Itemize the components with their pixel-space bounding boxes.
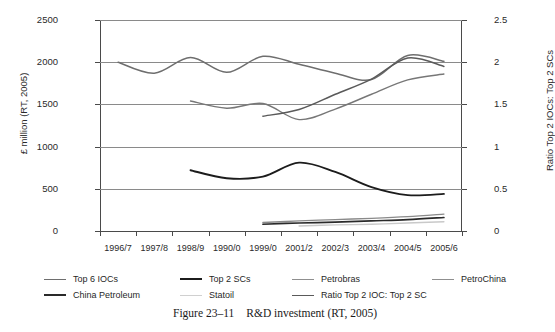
y-tick-right-0p5: 0.5 (494, 183, 530, 194)
x-tickmark (462, 231, 463, 236)
legend-label: Top 2 SCs (209, 274, 251, 284)
x-tickmark (136, 231, 137, 236)
y-tick-left-500: 500 (22, 183, 58, 194)
x-tickmark (209, 231, 210, 236)
y-tick-left-1000: 1000 (22, 141, 58, 152)
legend-label: PetroChina (461, 274, 506, 284)
y-tick-left-1500: 1500 (22, 98, 58, 109)
legend-swatch-icon (180, 295, 202, 296)
legend-item[interactable]: Statoil (180, 288, 234, 302)
x-tickmark (281, 231, 282, 236)
y-tick-right-1: 1 (494, 141, 530, 152)
y-tick-left-2000: 2000 (22, 56, 58, 67)
axis-tickmark (462, 62, 467, 63)
y-tick-right-2: 2 (494, 56, 530, 67)
x-tickmark (100, 231, 101, 236)
y-axis-right-title: Ratio Top 2 IOCs: Top 2 SCs (544, 23, 555, 198)
series-line-top-2-scs (191, 163, 444, 196)
y-tick-right-2p5: 2.5 (494, 14, 530, 25)
legend-swatch-icon (292, 295, 314, 296)
series-line-ratio-top-2-ioc-top-2-sc (263, 58, 444, 117)
legend-label: Ratio Top 2 IOC: Top 2 SC (321, 290, 427, 300)
x-tickmark (353, 231, 354, 236)
plot-area (100, 20, 462, 231)
legend-item[interactable]: Top 2 SCs (180, 272, 251, 286)
chart-legend: Top 6 IOCsTop 2 SCsPetrobrasPetroChinaCh… (0, 272, 550, 304)
series-lines (100, 20, 462, 231)
axis-tickmark (462, 104, 467, 105)
figure-caption: Figure 23–11R&D investment (RT, 2005) (0, 307, 550, 319)
legend-swatch-icon (432, 279, 454, 280)
figure-caption-text: R&D investment (RT, 2005) (246, 307, 377, 319)
y-tick-right-1p5: 1.5 (494, 98, 530, 109)
legend-swatch-icon (292, 279, 314, 280)
legend-item[interactable]: Ratio Top 2 IOC: Top 2 SC (292, 288, 427, 302)
legend-label: Petrobras (321, 274, 360, 284)
legend-swatch-icon (44, 279, 66, 280)
x-axis-labels: 1996/71997/81998/91990/01999/02001/22002… (0, 243, 550, 259)
x-axis-ticks (100, 231, 462, 237)
legend-item[interactable]: PetroChina (432, 272, 506, 286)
x-tickmark (390, 231, 391, 236)
legend-swatch-icon (180, 278, 202, 280)
legend-item[interactable]: Petrobras (292, 272, 360, 286)
y-tick-left-2500: 2500 (22, 14, 58, 25)
series-line-petrobras (191, 74, 444, 120)
y-tick-left-0: 0 (22, 225, 58, 236)
legend-item[interactable]: Top 6 IOCs (44, 272, 118, 286)
axis-tickmark (462, 147, 467, 148)
x-tickmark (426, 231, 427, 236)
legend-swatch-icon (44, 294, 66, 296)
legend-label: Statoil (209, 290, 234, 300)
figure-number: Figure 23–11 (173, 307, 234, 319)
x-label-9: 2005/6 (414, 243, 474, 253)
legend-label: Top 6 IOCs (73, 274, 118, 284)
axis-tickmark (462, 189, 467, 190)
x-tickmark (317, 231, 318, 236)
series-line-top-6-iocs (118, 55, 444, 80)
y-tick-right-0: 0 (494, 225, 530, 236)
legend-item[interactable]: China Petroleum (44, 288, 140, 302)
x-tickmark (172, 231, 173, 236)
x-tickmark (245, 231, 246, 236)
axis-tickmark (462, 20, 467, 21)
legend-label: China Petroleum (73, 290, 140, 300)
